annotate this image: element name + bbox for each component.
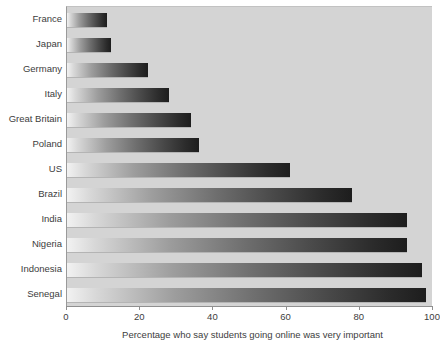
bar-senegal — [67, 288, 426, 302]
plot-area — [66, 6, 432, 306]
x-tick-label: 60 — [280, 311, 291, 323]
category-label-us: US — [0, 164, 62, 174]
category-label-brazil: Brazil — [0, 189, 62, 199]
x-axis-tick-labels: 020406080100 — [66, 311, 432, 325]
bar-row — [67, 113, 432, 127]
bar-row — [67, 63, 432, 77]
bar-row — [67, 238, 432, 252]
category-label-germany: Germany — [0, 64, 62, 74]
category-label-france: France — [0, 14, 62, 24]
bar-row — [67, 38, 432, 52]
bar-row — [67, 163, 432, 177]
bar-france — [67, 13, 107, 27]
category-label-italy: Italy — [0, 89, 62, 99]
bar-indonesia — [67, 263, 422, 277]
category-axis-labels: FranceJapanGermanyItalyGreat BritainPola… — [0, 6, 62, 306]
bar-row — [67, 13, 432, 27]
bar-rows — [67, 7, 432, 306]
bar-great-britain — [67, 113, 191, 127]
x-tick-label: 40 — [207, 311, 218, 323]
bar-poland — [67, 138, 199, 152]
bar-row — [67, 288, 432, 302]
category-label-nigeria: Nigeria — [0, 239, 62, 249]
category-label-indonesia: Indonesia — [0, 264, 62, 274]
bar-germany — [67, 63, 148, 77]
category-label-poland: Poland — [0, 139, 62, 149]
x-tick-label: 80 — [354, 311, 365, 323]
bar-nigeria — [67, 238, 407, 252]
category-label-senegal: Senegal — [0, 289, 62, 299]
bar-italy — [67, 88, 169, 102]
bar-row — [67, 188, 432, 202]
x-tick-label: 20 — [134, 311, 145, 323]
bar-row — [67, 138, 432, 152]
x-tick — [432, 306, 433, 310]
bar-row — [67, 213, 432, 227]
chart-caption: Percentage who say students going online… — [66, 329, 439, 341]
bar-us — [67, 163, 290, 177]
x-tick — [286, 306, 287, 310]
x-tick — [359, 306, 360, 310]
bar-row — [67, 263, 432, 277]
x-tick-label: 0 — [63, 311, 68, 323]
bar-india — [67, 213, 407, 227]
bar-brazil — [67, 188, 352, 202]
x-tick-label: 100 — [424, 311, 440, 323]
bar-row — [67, 88, 432, 102]
x-tick — [212, 306, 213, 310]
bar-japan — [67, 38, 111, 52]
x-tick — [66, 306, 67, 310]
category-label-india: India — [0, 214, 62, 224]
x-tick — [139, 306, 140, 310]
category-label-great-britain: Great Britain — [0, 114, 62, 124]
category-label-japan: Japan — [0, 39, 62, 49]
